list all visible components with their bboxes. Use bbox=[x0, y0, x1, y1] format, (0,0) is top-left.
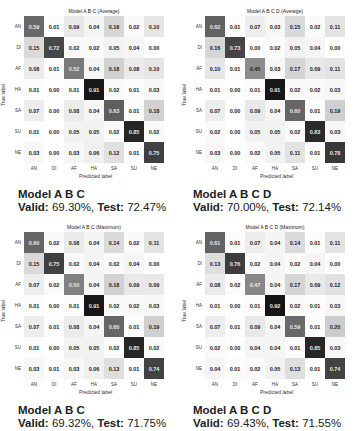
heatmap-cell: 0.01 bbox=[124, 100, 144, 121]
heatmap-cell: 0.00 bbox=[325, 37, 345, 58]
column-tick-label: DI bbox=[225, 382, 245, 387]
heatmap-cell: 0.76 bbox=[225, 253, 245, 274]
heatmap-cell: 0.01 bbox=[124, 316, 144, 337]
row-tick-label: HA bbox=[9, 87, 21, 92]
x-axis-label: Predicted label bbox=[79, 389, 112, 395]
heatmap-cell: 0.18 bbox=[104, 274, 124, 295]
heatmap-cell: 0.72 bbox=[44, 37, 64, 58]
heatmap-cell: 0.02 bbox=[285, 79, 305, 100]
heatmap-cell: 0.91 bbox=[84, 295, 104, 316]
heatmap-cell: 0.02 bbox=[124, 16, 144, 37]
heatmap-cell: 0.07 bbox=[205, 100, 225, 121]
heatmap-grid: 0.590.010.090.040.160.020.100.150.720.02… bbox=[24, 16, 164, 163]
column-tick-label: SA bbox=[104, 382, 124, 387]
heatmap-cell: 0.01 bbox=[225, 358, 245, 379]
heatmap-cell: 0.07 bbox=[245, 16, 265, 37]
heatmap-cell: 0.07 bbox=[24, 316, 44, 337]
column-tick-label: AN bbox=[24, 166, 44, 171]
heatmap-cell: 0.04 bbox=[84, 316, 104, 337]
model-caption: Model A B C DValid: 69.43%, Test: 71.55% bbox=[193, 404, 341, 430]
heatmap-cell: 0.73 bbox=[225, 37, 245, 58]
heatmap-cell: 0.11 bbox=[325, 16, 345, 37]
valid-value: 69.30% bbox=[52, 201, 91, 213]
heatmap-cell: 0.02 bbox=[124, 232, 144, 253]
heatmap-cell: 0.09 bbox=[144, 274, 164, 295]
column-tick-label: AF bbox=[245, 382, 265, 387]
heatmap-cell: 0.01 bbox=[124, 79, 144, 100]
heatmap-cell: 0.02 bbox=[64, 37, 84, 58]
column-tick-label: SU bbox=[124, 382, 144, 387]
heatmap-cell: 0.05 bbox=[265, 142, 285, 163]
heatmap-cell: 0.03 bbox=[24, 358, 44, 379]
heatmap-cell: 0.04 bbox=[265, 232, 285, 253]
heatmap-cell: 0.02 bbox=[44, 274, 64, 295]
confusion-matrix-panel: Model A B C (Maximum)0.600.020.080.040.1… bbox=[0, 216, 172, 431]
y-axis-label: True label bbox=[181, 84, 187, 106]
valid-label: Valid: bbox=[18, 201, 49, 213]
heatmap-cell: 0.78 bbox=[325, 142, 345, 163]
heatmap-cell: 0.03 bbox=[265, 58, 285, 79]
heatmap-cell: 0.03 bbox=[24, 142, 44, 163]
accuracy-line: Valid: 69.32%, Test: 71.75% bbox=[18, 417, 166, 430]
heatmap-cell: 0.01 bbox=[24, 295, 44, 316]
row-tick-label: AF bbox=[9, 66, 21, 71]
heatmap-cell: 0.02 bbox=[64, 253, 84, 274]
heatmap-cell: 0.07 bbox=[205, 316, 225, 337]
heatmap-cell: 0.02 bbox=[245, 253, 265, 274]
heatmap-cell: 0.02 bbox=[205, 337, 225, 358]
model-name: Model A B C D bbox=[193, 404, 341, 417]
heatmap-cell: 0.08 bbox=[24, 58, 44, 79]
heatmap-cell: 0.03 bbox=[325, 121, 345, 142]
heatmap-cell: 0.01 bbox=[64, 295, 84, 316]
heatmap-cell: 0.17 bbox=[285, 58, 305, 79]
heatmap-cell: 0.00 bbox=[44, 337, 64, 358]
heatmap-cell: 0.00 bbox=[144, 37, 164, 58]
heatmap-cell: 0.01 bbox=[305, 142, 325, 163]
heatmap-cell: 0.05 bbox=[104, 37, 124, 58]
heatmap-cell: 0.01 bbox=[124, 358, 144, 379]
test-label: Test: bbox=[272, 201, 299, 213]
heatmap-cell: 0.09 bbox=[305, 58, 325, 79]
heatmap-cell: 0.04 bbox=[124, 37, 144, 58]
heatmap-cell: 0.00 bbox=[245, 37, 265, 58]
heatmap-cell: 0.04 bbox=[265, 253, 285, 274]
heatmap-cell: 0.04 bbox=[265, 316, 285, 337]
heatmap-cell: 0.05 bbox=[84, 121, 104, 142]
heatmap-cell: 0.04 bbox=[265, 337, 285, 358]
heatmap-cell: 0.17 bbox=[285, 274, 305, 295]
row-tick-label: SU bbox=[9, 129, 21, 134]
heatmap-cell: 0.15 bbox=[24, 37, 44, 58]
heatmap-cell: 0.02 bbox=[144, 121, 164, 142]
model-name: Model A B C bbox=[18, 404, 166, 417]
heatmap-cell: 0.20 bbox=[325, 316, 345, 337]
heatmap-cell: 0.01 bbox=[305, 358, 325, 379]
heatmap-cell: 0.11 bbox=[144, 232, 164, 253]
column-tick-label: AN bbox=[24, 382, 44, 387]
heatmap-cell: 0.01 bbox=[124, 142, 144, 163]
heatmap-cell: 0.00 bbox=[44, 121, 64, 142]
heatmap-cell: 0.02 bbox=[305, 16, 325, 37]
heatmap-cell: 0.60 bbox=[24, 232, 44, 253]
heatmap-cell: 0.01 bbox=[305, 232, 325, 253]
row-tick-label: AN bbox=[9, 240, 21, 245]
heatmap-cell: 0.04 bbox=[84, 274, 104, 295]
heatmap-cell: 0.02 bbox=[305, 79, 325, 100]
test-value: 71.75% bbox=[127, 417, 166, 429]
accuracy-line: Valid: 69.43%, Test: 71.55% bbox=[193, 417, 341, 430]
valid-value: 69.43% bbox=[227, 417, 266, 429]
heatmap-cell: 0.01 bbox=[44, 16, 64, 37]
heatmap-cell: 0.04 bbox=[205, 358, 225, 379]
heatmap-cell: 0.00 bbox=[44, 142, 64, 163]
heatmap-cell: 0.63 bbox=[104, 100, 124, 121]
column-tick-label: NE bbox=[144, 382, 164, 387]
heatmap-cell: 0.05 bbox=[285, 37, 305, 58]
chart-title: Model A B C (Average) bbox=[24, 8, 164, 14]
heatmap-cell: 0.13 bbox=[104, 358, 124, 379]
heatmap-cell: 0.09 bbox=[245, 316, 265, 337]
heatmap-cell: 0.01 bbox=[225, 16, 245, 37]
test-value: 72.14% bbox=[302, 201, 341, 213]
row-tick-label: DI bbox=[190, 261, 202, 266]
heatmap-cell: 0.02 bbox=[265, 37, 285, 58]
column-tick-label: AN bbox=[205, 382, 225, 387]
heatmap-cell: 0.75 bbox=[44, 253, 64, 274]
